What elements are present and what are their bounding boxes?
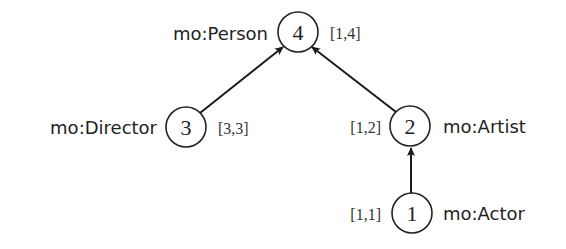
- interval-label: [1,1]: [350, 206, 381, 223]
- class-label: mo:Director: [50, 117, 158, 138]
- node-actor: 1 mo:Actor [1,1]: [350, 193, 525, 233]
- interval-label: [1,4]: [330, 25, 361, 42]
- node-artist: 2 mo:Artist [1,2]: [350, 106, 525, 146]
- edge-artist-to-person: [312, 47, 396, 112]
- node-number: 2: [405, 114, 416, 139]
- class-label: mo:Actor: [443, 203, 526, 224]
- class-label: mo:Person: [173, 23, 268, 44]
- edge-director-to-person: [200, 47, 283, 113]
- class-label: mo:Artist: [443, 116, 526, 137]
- interval-label: [3,3]: [218, 120, 249, 137]
- interval-label: [1,2]: [350, 119, 381, 136]
- class-hierarchy-diagram: 4 mo:Person [1,4] 3 mo:Director [3,3] 2 …: [0, 0, 566, 249]
- node-person: 4 mo:Person [1,4]: [173, 12, 361, 52]
- node-number: 3: [181, 115, 192, 140]
- node-number: 4: [293, 20, 304, 45]
- node-number: 1: [407, 201, 418, 226]
- node-director: 3 mo:Director [3,3]: [50, 107, 249, 147]
